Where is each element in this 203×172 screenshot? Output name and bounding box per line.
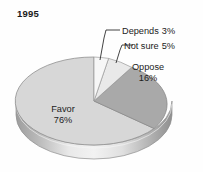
- label-depends: Depends3%: [122, 26, 175, 37]
- label-favor-name: Favor: [40, 104, 86, 115]
- label-depends-name: Depends: [122, 26, 159, 36]
- label-not-sure: Not sure5%: [124, 41, 175, 52]
- label-oppose-value: 16%: [124, 73, 172, 84]
- label-depends-value: 3%: [159, 26, 175, 36]
- label-not-sure-name: Not sure: [124, 41, 159, 51]
- label-favor: Favor 76%: [40, 104, 86, 125]
- label-not-sure-value: 5%: [159, 41, 175, 51]
- label-oppose-name: Oppose: [124, 62, 172, 73]
- chart-canvas: 1995: [0, 0, 203, 172]
- leader-line-depends: [100, 30, 120, 60]
- label-favor-value: 76%: [40, 115, 86, 126]
- label-oppose: Oppose 16%: [124, 62, 172, 83]
